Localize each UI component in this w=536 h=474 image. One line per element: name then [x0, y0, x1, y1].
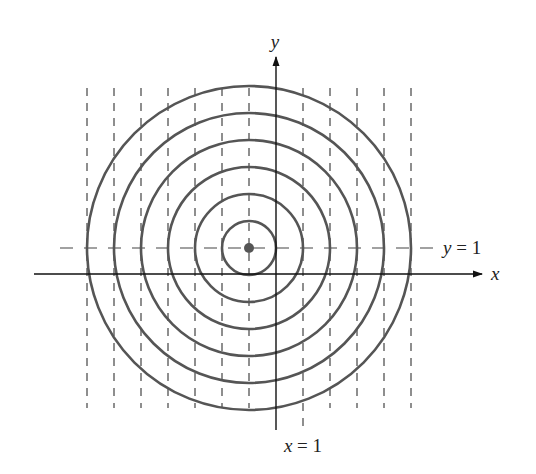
y-axis-label: y	[269, 31, 280, 52]
level-curves-diagram: y x y = 1 x = 1	[0, 0, 536, 474]
x-equals-1-label: x = 1	[283, 435, 322, 456]
center-dot	[244, 243, 254, 253]
x-axis-label: x	[490, 263, 500, 284]
y-equals-1-label: y = 1	[441, 237, 481, 258]
